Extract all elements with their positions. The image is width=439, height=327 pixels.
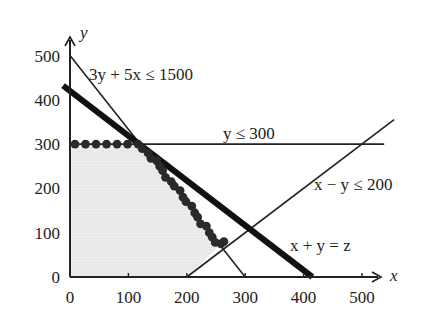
y-tick-label: 500 (35, 47, 61, 66)
constraint3-label: x − y ≤ 200 (314, 175, 392, 194)
x-tick-label: 500 (349, 288, 375, 307)
path-dot (81, 140, 90, 149)
x-tick-label: 400 (291, 288, 317, 307)
x-tick-label: 200 (174, 288, 200, 307)
path-dot (220, 237, 229, 246)
y-tick-label: 100 (35, 224, 61, 243)
path-dot (102, 140, 111, 149)
x-axis-label: x (389, 266, 398, 285)
objective-label: x + y = z (290, 236, 351, 255)
y-tick-label: 200 (35, 179, 61, 198)
path-dot (123, 140, 132, 149)
y-tick-label: 0 (52, 268, 61, 287)
constraint2-label: y ≤ 300 (223, 124, 275, 143)
constraint1-label: 3y + 5x ≤ 1500 (89, 65, 193, 84)
path-dot (71, 140, 80, 149)
x-tick-label: 0 (66, 288, 75, 307)
y-tick-label: 300 (35, 135, 61, 154)
y-axis-label: y (78, 23, 88, 42)
path-dot (113, 140, 122, 149)
y-tick-label: 400 (35, 91, 61, 110)
x-tick-label: 100 (116, 288, 142, 307)
path-dot (92, 140, 101, 149)
linear-programming-chart: 01002003004005000100200300400500 yx3y + … (0, 0, 439, 327)
x-tick-label: 300 (232, 288, 258, 307)
